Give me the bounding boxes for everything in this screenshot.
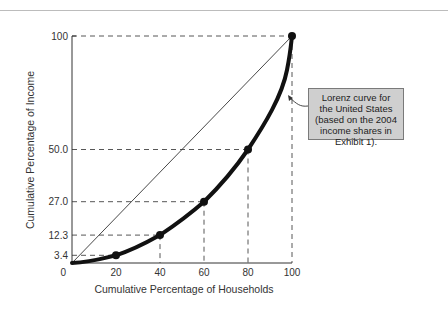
point-60 [200,198,208,206]
y-tick-label-100: 100 [51,31,68,42]
y-tick-label-50: 50.0 [49,144,69,155]
x-tick-label-80: 80 [242,267,254,278]
note-line-5: Exhibit 1). [311,136,401,147]
y-tick-label-3: 3.4 [54,250,68,261]
annotation-arrow [290,98,308,106]
x-tick-label-100: 100 [284,267,301,278]
note-line-3: (based on the 2004 [311,114,401,125]
x-tick-label-20: 20 [110,267,122,278]
x-tick-label-60: 60 [198,267,210,278]
y-axis-title: Cumulative Percentage of Income [24,71,36,229]
point-100 [288,32,296,40]
lorenz-annotation-box: Lorenz curve for the United States (base… [308,88,404,140]
origin-label: 0 [60,267,66,278]
x-tick-label-40: 40 [154,267,166,278]
equality-line [72,36,292,263]
y-tick-label-12: 12.3 [49,230,69,241]
y-tick-label-27: 27.0 [49,196,69,207]
note-line-1: Lorenz curve for [311,92,401,103]
x-axis-title: Cumulative Percentage of Households [94,283,273,295]
data-points [112,32,296,259]
point-80 [244,146,252,154]
note-line-4: income shares in [311,125,401,136]
note-line-2: the United States [311,103,401,114]
lorenz-chart: 100 50.0 27.0 12.3 3.4 0 20 40 60 80 100… [0,0,448,315]
point-20 [112,251,120,259]
point-40 [156,231,164,239]
